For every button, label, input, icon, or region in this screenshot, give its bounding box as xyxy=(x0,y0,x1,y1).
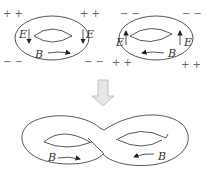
charge-minus-right: − − xyxy=(182,8,202,19)
left-hole-top xyxy=(44,134,90,142)
top-right-torus: − − − − + + + + E E B xyxy=(112,8,202,70)
transition-arrow-down-icon xyxy=(92,80,114,106)
b-field-arrow-right-icon xyxy=(48,52,70,53)
torus-hole xyxy=(130,28,172,41)
charge-minus-left: − − xyxy=(3,56,23,67)
right-hole-bottom xyxy=(118,140,162,146)
left-hole-bottom xyxy=(44,142,92,147)
torus-diagram: + + + + − − − − E E B − − − − + + + + E … xyxy=(0,0,209,175)
b-field-arrow-right-icon xyxy=(58,157,80,159)
b-field-arrow-left-icon xyxy=(134,154,154,157)
charge-plus-left: + + xyxy=(3,8,23,19)
charge-minus-left: − − xyxy=(120,8,140,19)
e-field-label-left: E xyxy=(115,36,124,49)
b-field-arrow-left-icon xyxy=(142,52,164,53)
charge-plus-right: + + xyxy=(181,59,201,70)
e-field-label-left: E xyxy=(18,28,27,41)
b-field-label-left: B xyxy=(47,151,56,164)
b-field-label-right: B xyxy=(157,150,166,163)
b-field-label: B xyxy=(167,47,176,60)
right-hole-tip xyxy=(166,134,168,138)
e-field-label-right: E xyxy=(183,36,192,49)
torus-outer-outline xyxy=(119,16,193,60)
figure-eight-torus: B B xyxy=(22,115,188,166)
crossing-curve-left xyxy=(88,138,104,154)
torus-hole xyxy=(34,29,72,42)
right-hole-top xyxy=(116,131,166,140)
e-field-label-right: E xyxy=(85,28,94,41)
b-field-label: B xyxy=(34,48,43,61)
charge-plus-right: + + xyxy=(80,8,100,19)
charge-minus-right: − − xyxy=(84,56,104,67)
charge-plus-left: + + xyxy=(112,57,132,68)
top-left-torus: + + + + − − − − E E B xyxy=(3,8,104,67)
